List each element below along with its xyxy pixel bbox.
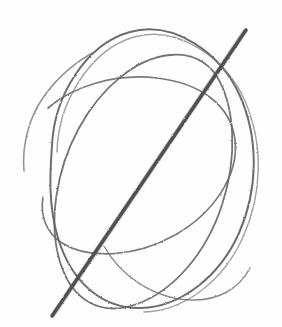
- sketch-canvas: [0, 0, 282, 327]
- paper-grain-texture: [0, 0, 282, 327]
- sketch-vector-layer: [0, 0, 282, 327]
